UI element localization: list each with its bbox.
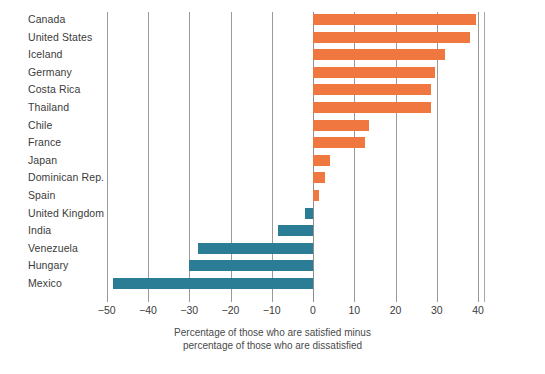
category-label: Thailand (0, 102, 94, 113)
bars (106, 12, 484, 302)
x-tick-label: −30 (180, 304, 198, 317)
category-label: Costa Rica (0, 84, 94, 95)
x-tick-label: 0 (310, 304, 316, 317)
x-tick-label: 20 (390, 304, 402, 317)
bar (278, 225, 313, 236)
x-tick-label: −40 (139, 304, 157, 317)
x-tick-label: 30 (431, 304, 443, 317)
category-label: Iceland (0, 49, 94, 60)
bar (313, 102, 431, 113)
category-label: France (0, 137, 94, 148)
x-tick-label: 40 (472, 304, 484, 317)
x-tick-label: −10 (263, 304, 281, 317)
x-axis-tick-labels: −50−40−30−20−10010203040 (0, 304, 545, 320)
category-label: Chile (0, 120, 94, 131)
bar (305, 208, 313, 219)
plot-right-edge (484, 12, 485, 302)
bar (313, 155, 330, 166)
bar (113, 278, 313, 289)
bar (313, 49, 445, 60)
bar (313, 172, 325, 183)
x-tick-label: 10 (348, 304, 360, 317)
category-label: Dominican Rep. (0, 172, 94, 183)
axis-caption-line-2: percentage of those who are dissatisfied (0, 339, 545, 352)
category-label: Spain (0, 190, 94, 201)
bar (313, 32, 470, 43)
category-label: Japan (0, 155, 94, 166)
bar (198, 243, 314, 254)
category-label: Venezuela (0, 243, 94, 254)
category-label: Germany (0, 67, 94, 78)
bar-chart: CanadaUnited StatesIcelandGermanyCosta R… (0, 0, 545, 374)
category-label: Mexico (0, 278, 94, 289)
category-axis-labels: CanadaUnited StatesIcelandGermanyCosta R… (0, 12, 100, 302)
bar (313, 120, 369, 131)
bar (313, 84, 431, 95)
plot-area (106, 12, 484, 302)
category-label: India (0, 225, 94, 236)
bar (313, 190, 319, 201)
category-label: United States (0, 32, 94, 43)
category-label: Canada (0, 14, 94, 25)
x-tick-label: −50 (98, 304, 116, 317)
axis-caption-line-1: Percentage of those who are satisfied mi… (0, 326, 545, 339)
x-axis-caption: Percentage of those who are satisfied mi… (0, 326, 545, 352)
category-label: United Kingdom (0, 208, 94, 219)
bar (189, 260, 313, 271)
category-label: Hungary (0, 260, 94, 271)
bar (313, 14, 476, 25)
x-tick-label: −20 (222, 304, 240, 317)
bar (313, 67, 435, 78)
bar (313, 137, 365, 148)
